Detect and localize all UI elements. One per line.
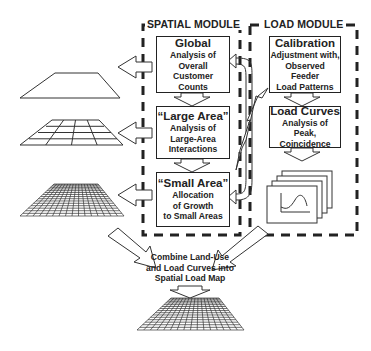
- arrow-down-icon: [170, 286, 210, 298]
- global-plane-icon: [20, 73, 120, 98]
- arrow-down-icon: [174, 159, 210, 172]
- box-line: Load Patterns: [270, 82, 340, 93]
- box-line: Analysis of Peak,: [270, 118, 340, 139]
- arrow-down-icon: [284, 148, 320, 161]
- box-line: Analysis of Overall: [157, 50, 229, 71]
- combine-label: Combine Land-Use and Load Curves into Sp…: [140, 252, 240, 284]
- spatial-load-map-grid-icon: [137, 298, 244, 330]
- small-area-allocation-box: “Small Area” Allocation of Growth to Sma…: [156, 172, 230, 227]
- box-title: Calibration: [270, 37, 340, 50]
- combine-line: and Load Curves into: [140, 263, 240, 274]
- box-line: Analysis of: [157, 123, 229, 134]
- combine-line: Combine Land-Use: [140, 252, 240, 263]
- arrow-left-icon: [118, 122, 152, 144]
- arrow-left-icon: [118, 184, 152, 206]
- load-curves-stack-icon: [267, 171, 332, 223]
- small-area-grid-icon: [20, 184, 124, 216]
- global-analysis-box: Global Analysis of Overall Customer Coun…: [156, 36, 230, 93]
- arrow-down-icon: [174, 93, 210, 106]
- box-line: Interactions: [157, 144, 229, 155]
- box-title: “Small Area”: [157, 177, 229, 190]
- box-line: to Small Areas: [157, 211, 229, 222]
- box-line: Customer Counts: [157, 71, 229, 92]
- spatial-module-title: SPATIAL MODULE: [145, 18, 242, 30]
- calibration-box: Calibration Adjustment with, Observed Fe…: [269, 36, 341, 93]
- box-title: “Large Area”: [157, 110, 229, 123]
- large-area-analysis-box: “Large Area” Analysis of Large-Area Inte…: [156, 106, 230, 159]
- box-title: Global: [157, 37, 229, 50]
- arrow-left-icon: [118, 56, 152, 78]
- box-line: Coincidence: [270, 139, 340, 150]
- box-line: Allocation: [157, 190, 229, 201]
- combine-line: Spatial Load Map: [140, 273, 240, 284]
- box-line: Adjustment with,: [270, 50, 340, 61]
- box-line: Large-Area: [157, 134, 229, 145]
- box-line: of Growth: [157, 201, 229, 212]
- output-arrows: [118, 56, 152, 206]
- box-title: Load Curves: [270, 105, 340, 118]
- load-curves-box: Load Curves Analysis of Peak, Coincidenc…: [269, 106, 341, 148]
- box-line: Observed Feeder: [270, 61, 340, 82]
- large-area-grid-icon: [20, 120, 123, 145]
- load-module-title: LOAD MODULE: [262, 18, 345, 30]
